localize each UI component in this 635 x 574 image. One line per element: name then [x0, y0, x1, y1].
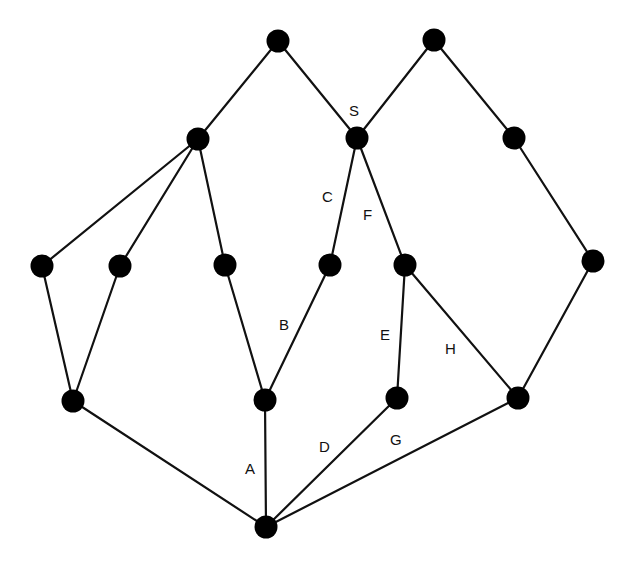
edge-b4-bottom-g — [266, 398, 518, 527]
edge-l1-m2 — [120, 139, 198, 266]
edge-b2-bottom-a — [265, 400, 266, 527]
edge-label-f: F — [363, 206, 372, 223]
edge-label-s: S — [349, 102, 359, 119]
edge-m5-b3-e — [397, 265, 405, 398]
edge-label-h: H — [445, 340, 456, 357]
node-b1 — [62, 390, 85, 413]
edge-label-c: C — [322, 188, 333, 205]
node-s — [346, 127, 369, 150]
edge-s-m5-f — [357, 138, 405, 265]
edge-label-g: G — [390, 431, 402, 448]
graph-diagram: SCFBEHADG — [0, 0, 635, 574]
node-m2 — [109, 255, 132, 278]
edge-r1-m6 — [514, 138, 593, 261]
labels-group: SCFBEHADG — [245, 102, 456, 477]
edge-t1-l1 — [198, 41, 278, 139]
node-m4 — [319, 254, 342, 277]
edge-label-e: E — [380, 326, 390, 343]
node-b3 — [386, 387, 409, 410]
edge-label-b: B — [279, 316, 289, 333]
node-t2 — [423, 29, 446, 52]
edge-t2-r1 — [434, 40, 514, 138]
edge-b1-bottom — [73, 401, 266, 527]
edge-l1-m3 — [198, 139, 225, 265]
node-m3 — [214, 254, 237, 277]
node-m5 — [394, 254, 417, 277]
edge-b3-bottom-d — [266, 398, 397, 527]
edge-m6-b4 — [518, 261, 593, 398]
edge-t2-s — [357, 40, 434, 138]
edge-s-m4-c — [330, 138, 357, 265]
node-b4 — [507, 387, 530, 410]
edge-label-a: A — [245, 460, 255, 477]
edge-m1-b1 — [42, 266, 73, 401]
node-t1 — [267, 30, 290, 53]
node-b2 — [254, 389, 277, 412]
node-m1 — [31, 255, 54, 278]
node-l1 — [187, 128, 210, 151]
node-r1 — [503, 127, 526, 150]
edge-label-d: D — [319, 438, 330, 455]
nodes-group — [31, 29, 605, 539]
edge-m5-b4-h — [405, 265, 518, 398]
edge-m4-b2-b — [265, 265, 330, 400]
edge-l1-m1 — [42, 139, 198, 266]
node-m6 — [582, 250, 605, 273]
edges-group — [42, 40, 593, 527]
edge-t1-s — [278, 41, 357, 138]
edge-m2-b1 — [73, 266, 120, 401]
node-bottom — [255, 516, 278, 539]
edge-m3-b2 — [225, 265, 265, 400]
